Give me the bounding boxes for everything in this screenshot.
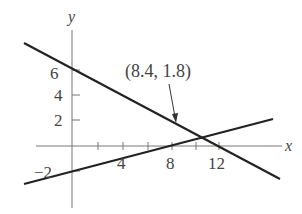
chart: y x 4 8 12 6 4 2 −2 (8.4, 1.8) bbox=[0, 0, 302, 214]
x-tick-label-12: 12 bbox=[208, 154, 225, 173]
x-tick-label-4: 4 bbox=[117, 154, 126, 173]
y-ticks bbox=[72, 70, 80, 171]
x-tick-label-8: 8 bbox=[166, 154, 175, 173]
y-tick-label-6: 6 bbox=[50, 64, 59, 83]
intersection-label: (8.4, 1.8) bbox=[125, 61, 191, 82]
y-tick-label-neg2: −2 bbox=[34, 163, 52, 182]
y-tick-label-4: 4 bbox=[54, 86, 63, 105]
y-axis-label: y bbox=[66, 8, 76, 26]
annotation-arrow bbox=[169, 84, 175, 117]
y-tick-label-2: 2 bbox=[54, 111, 63, 130]
x-axis-label: x bbox=[284, 137, 292, 154]
